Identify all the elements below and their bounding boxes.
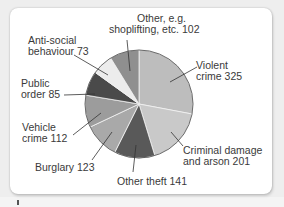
label-vehicle-crime: Vehicle crime 112 [22, 122, 67, 144]
pie-slices [85, 50, 193, 158]
label-criminal-damage: Criminal damage and arson 201 [183, 145, 262, 167]
label-public-order: Public order 85 [21, 78, 60, 100]
label-violent-crime: Violent crime 325 [196, 60, 242, 82]
label-other-theft: Other theft 141 [117, 176, 187, 187]
label-antisocial: Anti-social behaviour 73 [28, 35, 89, 57]
pie-slice [139, 50, 193, 114]
label-burglary: Burglary 123 [35, 162, 95, 173]
label-other: Other, e.g. shoplifting, etc. 102 [109, 13, 199, 35]
